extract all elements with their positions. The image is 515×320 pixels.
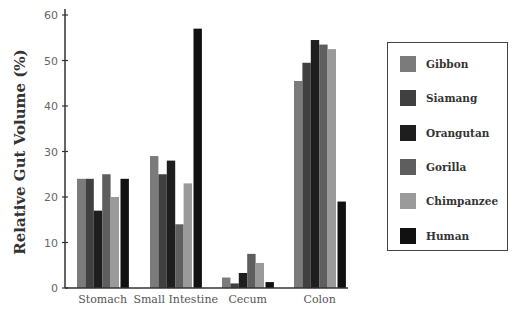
y-tick-label: 50 xyxy=(44,55,58,68)
bar-gibbon xyxy=(222,278,230,288)
y-tick-label: 0 xyxy=(51,282,58,295)
legend-swatch xyxy=(400,90,416,106)
legend-label: Gorilla xyxy=(426,161,466,173)
bar-gorilla xyxy=(102,174,110,288)
legend-item-chimpanzee: Chimpanzee xyxy=(400,192,498,210)
bar-gorilla xyxy=(175,224,183,288)
bar-group-stomach xyxy=(77,174,129,288)
bar-gorilla xyxy=(247,254,255,288)
legend-swatch xyxy=(400,228,416,244)
bar-human xyxy=(194,29,202,288)
legend-item-orangutan: Orangutan xyxy=(400,124,489,142)
x-category-label: Small Intestine xyxy=(133,293,218,306)
legend-swatch xyxy=(400,56,416,72)
y-tick-label: 40 xyxy=(44,100,58,113)
legend-item-human: Human xyxy=(400,227,469,245)
legend-item-gorilla: Gorilla xyxy=(400,158,466,176)
bar-siamang xyxy=(158,174,166,288)
legend-label: Siamang xyxy=(426,92,477,104)
y-tick-label: 30 xyxy=(44,146,58,159)
legend-swatch xyxy=(400,193,416,209)
bar-orangutan xyxy=(167,161,175,288)
bar-group-colon xyxy=(294,40,346,288)
bar-siamang xyxy=(302,63,310,288)
x-category-label: Colon xyxy=(304,293,336,306)
legend-item-siamang: Siamang xyxy=(400,89,477,107)
bar-chimpanzee xyxy=(111,197,119,288)
bar-group-small-intestine xyxy=(150,29,202,288)
legend-label: Human xyxy=(426,230,469,242)
legend: GibbonSiamangOrangutanGorillaChimpanzeeH… xyxy=(387,42,508,251)
legend-item-gibbon: Gibbon xyxy=(400,55,468,73)
bar-gibbon xyxy=(150,156,158,288)
bars xyxy=(77,29,346,288)
bar-gorilla xyxy=(319,45,327,288)
y-axis: 0102030405060 xyxy=(44,9,68,295)
bar-chimpanzee xyxy=(256,263,264,288)
legend-swatch xyxy=(400,125,416,141)
bar-gibbon xyxy=(294,81,302,288)
bar-gibbon xyxy=(77,179,85,288)
legend-label: Gibbon xyxy=(426,58,468,70)
y-axis-title: Relative Gut Volume (%) xyxy=(11,49,29,254)
x-category-label: Stomach xyxy=(78,293,127,306)
bar-human xyxy=(338,202,346,288)
x-axis: StomachSmall IntestineCecumColon xyxy=(65,288,348,306)
bar-orangutan xyxy=(239,273,247,288)
x-category-label: Cecum xyxy=(228,293,267,306)
y-tick-label: 60 xyxy=(44,9,58,22)
bar-chimpanzee xyxy=(184,183,192,288)
y-tick-label: 20 xyxy=(44,191,58,204)
bar-group-cecum xyxy=(222,254,274,288)
bar-orangutan xyxy=(94,211,102,288)
legend-label: Chimpanzee xyxy=(426,195,498,207)
bar-siamang xyxy=(85,179,93,288)
legend-swatch xyxy=(400,159,416,175)
bar-human xyxy=(121,179,129,288)
legend-label: Orangutan xyxy=(426,127,489,139)
bar-orangutan xyxy=(311,40,319,288)
bar-chimpanzee xyxy=(328,49,336,288)
bar-human xyxy=(266,282,274,288)
y-tick-label: 10 xyxy=(44,237,58,250)
